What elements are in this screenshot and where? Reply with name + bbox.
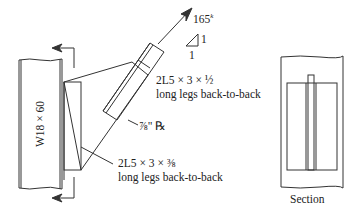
- slope-triangle: [186, 34, 198, 46]
- brace-angles: [103, 43, 164, 120]
- column-angle-label-line1: 2L5 × 3 × ⅜: [118, 157, 175, 170]
- force-label: 165k: [193, 10, 213, 26]
- force-value: 165: [193, 13, 210, 25]
- section-cut-arrow-bottom: [52, 177, 74, 202]
- slope-run: 1: [189, 49, 195, 62]
- brace-label-line1: 2L5 × 3 × ½: [156, 74, 213, 87]
- angle-leader: [81, 147, 113, 164]
- slope-rise: 1: [201, 33, 207, 46]
- gusset-plate: [64, 62, 148, 170]
- brace-label-line2: long legs back-to-back: [156, 88, 261, 101]
- force-unit: k: [210, 12, 213, 20]
- section-cut-arrow-top: [52, 44, 74, 68]
- column-angle-label-line2: long legs back-to-back: [118, 171, 223, 184]
- section-label: Section: [290, 193, 325, 206]
- section-view: [281, 56, 343, 188]
- column-label: W18 × 60: [34, 98, 46, 150]
- gusset-leader: [128, 120, 138, 125]
- gusset-plate-label: ⅞" ℞: [139, 120, 166, 133]
- force-arrow: [158, 8, 192, 44]
